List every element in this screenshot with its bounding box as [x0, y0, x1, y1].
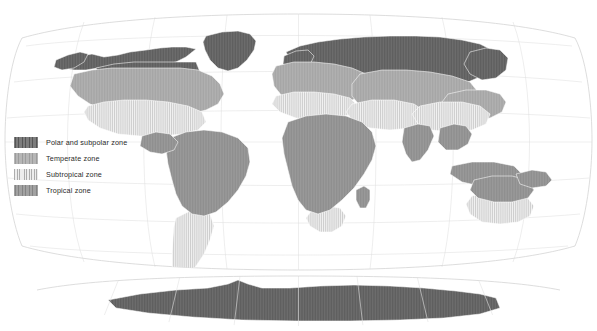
legend-label-tropical: Tropical zone [46, 185, 91, 196]
legend-swatch-subtropical [14, 169, 38, 180]
legend-label-temperate: Temperate zone [46, 153, 100, 164]
legend-swatch-temperate [14, 153, 38, 164]
legend-item-subtropical[interactable]: Subtropical zone [14, 167, 127, 181]
legend-item-temperate[interactable]: Temperate zone [14, 151, 127, 165]
legend-label-subtropical: Subtropical zone [46, 169, 102, 180]
legend: Polar and subpolar zone Temperate zone S… [14, 135, 127, 197]
legend-label-polar: Polar and subpolar zone [46, 137, 127, 148]
world-climate-zone-figure: Polar and subpolar zone Temperate zone S… [0, 0, 597, 331]
legend-swatch-tropical [14, 185, 38, 196]
legend-item-tropical[interactable]: Tropical zone [14, 183, 127, 197]
legend-item-polar[interactable]: Polar and subpolar zone [14, 135, 127, 149]
legend-swatch-polar [14, 137, 38, 148]
landmass-madagascar-tropical [356, 186, 370, 208]
